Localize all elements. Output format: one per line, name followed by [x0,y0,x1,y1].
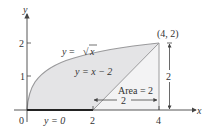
x-tick-4: 4 [156,115,161,126]
x-axis-label: x [196,105,202,116]
x-tick-0: 0 [19,115,24,126]
y-axis-label: y [22,4,28,15]
y0-label: y = 0 [43,115,65,126]
sqrt-radicand: x [89,46,95,57]
base-length: 2 [121,95,126,106]
height-length: 2 [166,71,171,82]
sqrt-radical-sign: √ [83,46,89,57]
y-tick-1: 1 [20,71,25,82]
x-tick-2: 2 [90,115,95,126]
point-label: (4, 2) [157,28,179,40]
area-diagram: y x 2 1 0 2 4 y = √ x y = x − 2 y = 0 (4… [0,0,202,128]
y-tick-2: 2 [19,38,24,49]
sqrt-label: y = [61,46,75,57]
line-label: y = x − 2 [74,66,112,77]
